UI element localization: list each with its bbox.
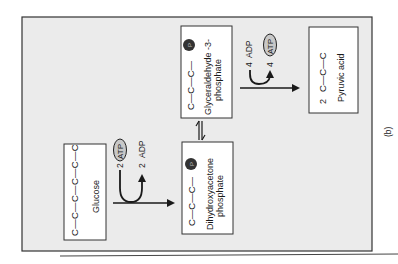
atp-coefficient-2: 4 [265,62,275,67]
adp-coefficient: 2 [137,163,147,168]
pyruvic-label: Pyruvic acid [336,53,346,102]
dhap-label-line1: Dihydroxyacetone [205,158,215,230]
dhap-box: C—C—C— P Dihydroxyacetone phosphate [182,142,233,234]
glycolysis-diagram: C—C—C—C—C—C Glucose ATP 2 2 ADP C—C—C— P… [0,0,398,264]
bottom-rule [60,254,398,256]
dhap-chain: C—C—C— [186,176,197,226]
pyruvic-coefficient: 2 [318,99,328,104]
atp-label-2: ATP [266,39,275,54]
dhap-phosphate-label: P [189,162,195,166]
g3p-label-line2: phosphate [213,59,223,101]
g3p-label-line1: Glyceraldehyde -3- [203,39,213,115]
atp-coefficient: 2 [115,163,125,168]
adp-label: ADP [137,140,147,158]
pyruvic-chain: C—C—C [317,52,328,92]
g3p-chain: C—C—C— [185,60,196,110]
glucose-chain: C—C—C—C—C—C [69,144,80,236]
glucose-box: C—C—C—C—C—C Glucose [64,144,106,240]
panel-label: (b) [383,126,393,137]
glucose-label: Glucose [91,180,101,213]
g3p-phosphate-label: P [187,43,193,47]
pyruvic-box: 2 C—C—C Pyruvic acid [309,27,358,113]
dhap-label-line2: phosphate [215,175,225,217]
g3p-box: C—C—C— P Glyceraldehyde -3- phosphate [181,26,232,118]
atp-label: ATP [116,144,125,159]
adp-label-2: ADP [244,40,254,58]
adp-coefficient-2: 4 [244,62,254,67]
